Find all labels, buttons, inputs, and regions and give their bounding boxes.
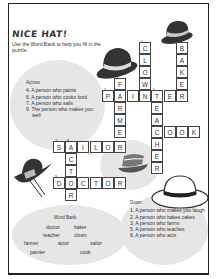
cell-letter: L [143, 57, 147, 64]
cell-letter: R [118, 180, 123, 187]
grid-cell[interactable]: C [65, 153, 77, 165]
grid-cell[interactable]: R [114, 177, 126, 189]
cell-letter: R [118, 144, 123, 151]
grid-cell[interactable]: H [151, 138, 163, 150]
cell-letter: C [155, 129, 160, 136]
clue-across-9: 9. The person who makes you well [26, 106, 96, 119]
cell-letter: T [94, 180, 98, 187]
fedora-hat-icon [160, 17, 194, 45]
word-cook: cook [80, 249, 91, 255]
cell-letter: E [155, 153, 159, 160]
grid-cell[interactable]: 4P [102, 90, 114, 102]
cell-letter: C [143, 45, 148, 52]
word-teacher: teacher [43, 232, 60, 238]
cell-letter: T [155, 93, 159, 100]
cell-letter: E [180, 81, 184, 88]
cell-letter: O [68, 180, 73, 187]
page-title: NICE HAT! [11, 29, 67, 39]
across-heading: Across [26, 80, 96, 86]
grid-cell[interactable]: 2B [176, 42, 188, 54]
grid-cell[interactable]: N [139, 90, 151, 102]
cell-letter: R [155, 165, 160, 172]
cell-letter: T [69, 168, 73, 175]
grid-cell[interactable]: 9D [53, 177, 65, 189]
cell-letter: O [167, 129, 172, 136]
clue-number: 7 [55, 138, 57, 144]
grid-cell[interactable]: 7S [53, 141, 65, 153]
cell-letter: R [69, 192, 74, 199]
grid-cell[interactable]: 3F [114, 78, 126, 90]
word-doctor: doctor [46, 224, 60, 230]
cell-letter: K [180, 69, 184, 76]
word-actor: actor [58, 240, 69, 246]
grid-cell[interactable]: T [90, 177, 102, 189]
clue-number: 5 [153, 87, 155, 93]
clue-number: 2 [178, 39, 180, 45]
clue-number: 8 [67, 138, 69, 144]
grid-cell[interactable]: 1C [139, 42, 151, 54]
cell-letter: H [155, 141, 160, 148]
grid-cell[interactable]: O [139, 66, 151, 78]
word-baker: baker [74, 224, 87, 230]
cell-letter: O [105, 180, 110, 187]
grid-cell[interactable]: A [176, 54, 188, 66]
cell-letter: F [118, 81, 122, 88]
cell-letter: L [94, 144, 98, 151]
word-farmer: farmer [24, 240, 38, 246]
bg-blob-wordbank [12, 205, 127, 265]
clue-number: 3 [116, 75, 118, 81]
grid-cell[interactable]: E [114, 126, 126, 138]
grid-cell[interactable]: 5T [151, 90, 163, 102]
cell-letter: O [179, 129, 184, 136]
grid-cell[interactable]: W [139, 78, 151, 90]
clue-number: 6 [153, 123, 155, 129]
grid-cell[interactable]: R [176, 90, 188, 102]
grid-cell[interactable]: 6C [151, 126, 163, 138]
cell-letter: S [57, 144, 61, 151]
cell-letter: E [168, 93, 172, 100]
grid-cell[interactable]: L [90, 141, 102, 153]
cell-letter: R [118, 105, 123, 112]
grid-cell[interactable]: I [77, 141, 89, 153]
grid-cell[interactable]: E [164, 90, 176, 102]
grid-cell[interactable]: I [127, 90, 139, 102]
grid-cell[interactable]: O [176, 126, 188, 138]
clue-number: 9 [55, 174, 57, 180]
cell-letter: I [132, 93, 134, 100]
grid-cell[interactable]: E [151, 102, 163, 114]
grid-cell[interactable]: R [151, 162, 163, 174]
grid-cell[interactable]: K [188, 126, 200, 138]
cell-letter: I [82, 144, 84, 151]
word-sailor: sailor [90, 240, 102, 246]
grid-cell[interactable]: R [114, 141, 126, 153]
grid-cell[interactable]: O [164, 126, 176, 138]
clue-down-8: 8. A person who acts [130, 232, 210, 238]
clue-number: 4 [104, 87, 106, 93]
grid-cell[interactable]: E [176, 78, 188, 90]
grid-cell[interactable]: K [176, 66, 188, 78]
grid-cell[interactable]: O [102, 177, 114, 189]
cell-letter: A [180, 57, 184, 64]
cell-letter: W [142, 81, 148, 88]
grid-cell[interactable]: C [77, 177, 89, 189]
word-painter: painter [30, 249, 45, 255]
grid-cell[interactable]: O [65, 177, 77, 189]
cell-letter: R [180, 93, 185, 100]
grid-cell[interactable]: L [139, 54, 151, 66]
grid-cell[interactable]: E [151, 150, 163, 162]
cell-letter: D [57, 180, 62, 187]
word-bank-title: Word Bank [54, 215, 76, 220]
grid-cell[interactable]: A [114, 90, 126, 102]
grid-cell[interactable]: M [114, 114, 126, 126]
grid-cell[interactable]: O [102, 141, 114, 153]
cell-letter: O [142, 69, 147, 76]
grid-cell[interactable]: T [65, 165, 77, 177]
cell-letter: O [105, 144, 110, 151]
cell-letter: M [117, 117, 122, 124]
cowboy-hat-icon [12, 155, 54, 200]
grid-cell[interactable]: R [114, 102, 126, 114]
grid-cell[interactable]: R [65, 189, 77, 201]
grid-cell[interactable]: 8A [65, 141, 77, 153]
cell-letter: E [155, 105, 159, 112]
across-clues: Across 4. A person who paints 6. A perso… [26, 80, 96, 119]
